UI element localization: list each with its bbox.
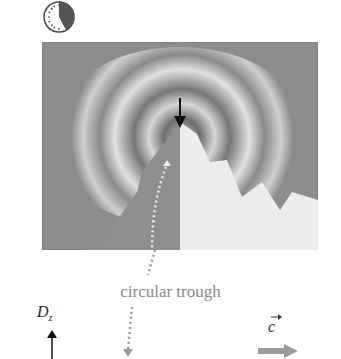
trough-label: circular trough [0,282,341,302]
dz-axis-label: Dz [37,303,52,323]
c-right-arrow-icon [258,344,298,358]
dotted-arrow-upper [140,250,170,280]
dz-up-arrow-icon [46,330,58,359]
dz-letter: D [37,303,49,320]
dotted-arrow-lower [118,305,138,359]
dz-subscript: z [49,312,53,323]
surface-plot [42,42,318,250]
clock-icon [42,0,76,34]
vector-mark-icon [270,313,282,321]
